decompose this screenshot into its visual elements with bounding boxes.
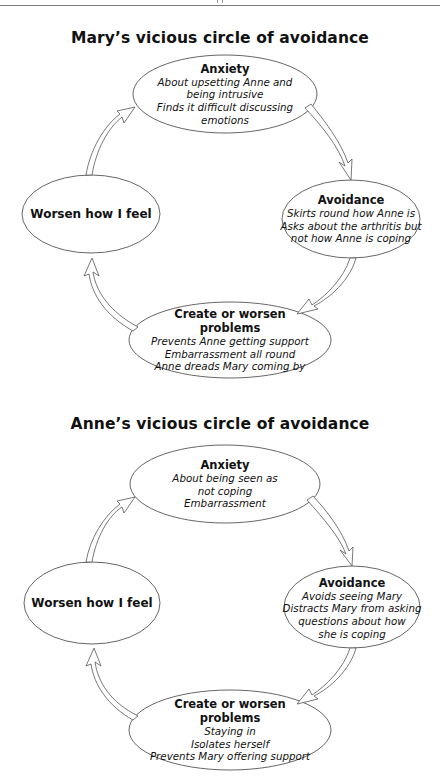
- node-heading: Create or worsen: [174, 307, 286, 321]
- node-heading: problems: [200, 321, 261, 335]
- node-heading: Worsen how I feel: [31, 596, 152, 610]
- node-text: emotions: [201, 114, 249, 127]
- node-text: Asks about the arthritis but: [281, 220, 422, 233]
- node-create: Create or worsen problems Prevents Anne …: [129, 303, 331, 377]
- arrow-worsen-to-anxiety-icon: [86, 497, 135, 562]
- node-text: About upsetting Anne and: [158, 76, 293, 89]
- node-text: she is coping: [318, 628, 385, 641]
- node-text: being intrusive: [187, 88, 264, 101]
- node-text: Embarrassment all round: [165, 348, 296, 361]
- node-text: not how Anne is coping: [291, 232, 411, 245]
- node-worsen: Worsen how I feel: [24, 562, 160, 644]
- node-text: Prevents Mary offering support: [150, 750, 310, 763]
- node-text: Finds it difficult discussing: [157, 101, 293, 114]
- node-text: Distracts Mary from asking: [283, 602, 422, 615]
- node-avoidance: Avoidance Skirts round how Anne is Asks …: [282, 182, 420, 256]
- node-create: Create or worsen problems Staying in Iso…: [129, 691, 331, 769]
- node-heading: Anxiety: [200, 458, 249, 472]
- mary-vicious-circle-diagram: Mary’s vicious circle of avoidance Anxie…: [0, 0, 440, 390]
- node-text: not coping: [198, 485, 253, 498]
- node-text: Embarrassment: [184, 497, 266, 510]
- node-heading: Worsen how I feel: [30, 207, 151, 221]
- node-anxiety: Anxiety About upsetting Anne and being i…: [133, 56, 317, 132]
- node-heading: Avoidance: [318, 193, 385, 207]
- diagram-title: Mary’s vicious circle of avoidance: [0, 29, 440, 47]
- node-heading: Anxiety: [200, 62, 249, 76]
- node-worsen: Worsen how I feel: [22, 176, 160, 252]
- node-text: Skirts round how Anne is: [287, 207, 415, 220]
- node-text: Anne dreads Mary coming by: [155, 360, 306, 373]
- node-text: Prevents Anne getting support: [151, 335, 309, 348]
- diagram-title: Anne’s vicious circle of avoidance: [0, 415, 440, 433]
- node-text: questions about how: [298, 615, 405, 628]
- node-text: Staying in: [204, 725, 256, 738]
- node-text: Isolates herself: [191, 738, 269, 751]
- node-avoidance: Avoidance Avoids seeing Mary Distracts M…: [284, 568, 420, 648]
- node-heading: problems: [200, 711, 261, 725]
- node-text: Avoids seeing Mary: [302, 590, 402, 603]
- arrow-worsen-to-anxiety-icon: [86, 107, 135, 175]
- node-heading: Create or worsen: [174, 697, 286, 711]
- node-text: About being seen as: [172, 472, 277, 485]
- node-anxiety: Anxiety About being seen as not coping E…: [130, 446, 320, 522]
- node-heading: Avoidance: [319, 576, 386, 590]
- anne-vicious-circle-diagram: Anne’s vicious circle of avoidance Anxie…: [0, 390, 440, 782]
